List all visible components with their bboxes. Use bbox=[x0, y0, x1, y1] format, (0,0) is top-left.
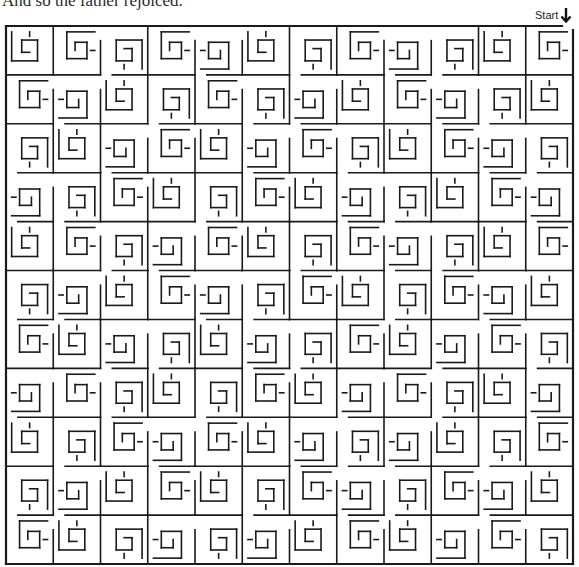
maze-grid[interactable] bbox=[0, 0, 579, 567]
